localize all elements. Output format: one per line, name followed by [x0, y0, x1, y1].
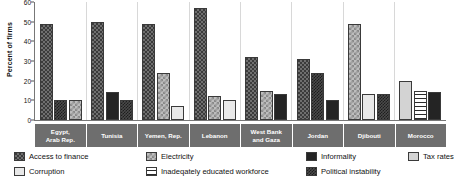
legend-swatch-icon — [146, 167, 157, 176]
category-label: Djibouti — [343, 124, 395, 147]
bar[interactable] — [69, 100, 82, 120]
bar[interactable] — [274, 94, 287, 120]
bar[interactable] — [311, 73, 324, 120]
bar-groups — [35, 2, 446, 120]
bar[interactable] — [377, 94, 390, 120]
bar-group — [189, 2, 240, 120]
chart-legend: Access to financeCorruption ElectricityI… — [0, 150, 452, 181]
legend-item[interactable]: Political instability — [306, 165, 381, 178]
category-label: Yemen, Rep. — [137, 124, 189, 147]
y-axis-tick-label: 40 — [24, 38, 31, 45]
legend-column-1: Access to financeCorruption — [14, 150, 89, 180]
bar[interactable] — [106, 92, 119, 120]
bar[interactable] — [208, 96, 221, 120]
bar[interactable] — [171, 106, 184, 120]
category-label: Egypt,Arab Rep. — [35, 124, 86, 147]
bar[interactable] — [362, 94, 375, 120]
legend-column-3: InformalityPolitical instability — [306, 150, 381, 180]
legend-item[interactable]: Tax rates — [408, 150, 454, 163]
legend-item-label: Access to finance — [29, 152, 89, 161]
legend-item[interactable]: Access to finance — [14, 150, 89, 163]
legend-item-label: Political instability — [321, 167, 381, 176]
legend-swatch-icon — [146, 152, 157, 161]
bar-group — [292, 2, 343, 120]
bar[interactable] — [142, 24, 155, 120]
bar[interactable] — [260, 91, 273, 121]
bar[interactable] — [54, 100, 67, 120]
legend-item-label: Electricity — [161, 152, 194, 161]
y-axis-tick-label: 20 — [24, 77, 31, 84]
x-axis-line — [34, 120, 446, 121]
legend-swatch-icon — [306, 152, 317, 161]
bar[interactable] — [223, 100, 236, 120]
legend-item-label: Informality — [321, 152, 356, 161]
y-axis-tick-label: 10 — [24, 97, 31, 104]
bar-group — [241, 2, 292, 120]
bar-group — [395, 2, 446, 120]
legend-swatch-icon — [408, 152, 419, 161]
category-label: Jordan — [292, 124, 344, 147]
legend-item[interactable]: Corruption — [14, 165, 89, 178]
bar-group — [343, 2, 394, 120]
legend-column-4: Tax rates — [408, 150, 454, 165]
bar[interactable] — [326, 100, 339, 120]
legend-item-label: Inadeqately educated workforce — [161, 167, 269, 176]
legend-item[interactable]: Informality — [306, 150, 381, 163]
bar[interactable] — [245, 57, 258, 120]
category-label: West Bankand Gaza — [240, 124, 292, 147]
legend-swatch-icon — [14, 152, 25, 161]
bar-group — [86, 2, 137, 120]
bar[interactable] — [194, 8, 207, 120]
bar[interactable] — [91, 22, 104, 120]
bar[interactable] — [297, 59, 310, 120]
bar[interactable] — [40, 24, 53, 120]
legend-item-label: Tax rates — [423, 152, 454, 161]
legend-column-2: ElectricityInadeqately educated workforc… — [146, 150, 269, 180]
bar[interactable] — [157, 73, 170, 120]
y-axis-tick-label: 30 — [24, 58, 31, 65]
legend-item[interactable]: Electricity — [146, 150, 269, 163]
category-label: Morocco — [395, 124, 447, 147]
y-axis-tick-label: 50 — [24, 18, 31, 25]
category-labels-strip: Egypt,Arab Rep.TunisiaYemen, Rep.Lebanon… — [35, 124, 446, 147]
bar[interactable] — [414, 91, 427, 121]
y-axis-ticks: 6050403020100 — [12, 0, 34, 124]
bar[interactable] — [120, 100, 133, 120]
bar-group — [138, 2, 189, 120]
bar[interactable] — [428, 92, 441, 120]
bar-group — [35, 2, 86, 120]
legend-swatch-icon — [14, 167, 25, 176]
y-axis-tick-label: 60 — [24, 0, 31, 6]
legend-item-label: Corruption — [29, 167, 64, 176]
legend-item[interactable]: Inadeqately educated workforce — [146, 165, 269, 178]
category-label: Lebanon — [189, 124, 241, 147]
category-label: Tunisia — [86, 124, 138, 147]
bar[interactable] — [348, 24, 361, 120]
plot-area: Percent of firms 6050403020100 — [0, 0, 452, 124]
bar[interactable] — [399, 81, 412, 120]
legend-swatch-icon — [306, 167, 317, 176]
